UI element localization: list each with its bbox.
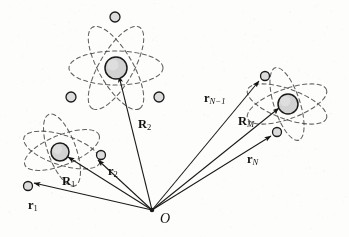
label-RM-subscript: M	[247, 119, 254, 129]
label-RM: RM	[238, 112, 254, 129]
label-R1-subscript: 1	[71, 179, 75, 189]
electron-right	[154, 92, 164, 102]
origin-dot	[150, 208, 155, 213]
label-r2-subscript: 2	[114, 169, 118, 179]
label-rN: rN	[247, 150, 258, 167]
label-rN-minus-1: rN−1	[204, 89, 226, 106]
electron-left	[66, 92, 76, 102]
vector-rN	[152, 136, 271, 210]
position-vectors-figure: r1 r2 R1 R2 RM rN−1 rN O	[0, 0, 349, 237]
label-R1: R1	[62, 172, 75, 189]
label-rN-minus-1-subscript: N−1	[210, 96, 226, 106]
label-R1-symbol: R	[62, 174, 71, 188]
electron-r2	[97, 151, 106, 160]
electron-rN1	[261, 72, 270, 81]
label-R2-symbol: R	[138, 117, 147, 131]
label-R2-subscript: 2	[147, 122, 151, 132]
label-r1-subscript: 1	[34, 203, 38, 213]
electron-rN	[273, 128, 282, 137]
label-rN-subscript: N	[253, 157, 259, 167]
diagram-canvas	[0, 0, 349, 237]
vector-RM	[152, 108, 279, 210]
vector-R2	[119, 76, 152, 210]
label-RM-symbol: R	[238, 114, 247, 128]
nucleus-highlight-atom-1	[53, 145, 62, 154]
label-R2: R2	[138, 115, 151, 132]
nucleus-highlight-atom-M	[280, 96, 290, 106]
origin-label: O	[160, 212, 170, 226]
vector-r2	[98, 160, 152, 210]
nucleus-highlight-atom-2	[107, 59, 118, 70]
electron-top	[110, 12, 120, 22]
origin-marker-layer	[150, 208, 155, 213]
label-r1: r1	[28, 196, 38, 213]
vector-r1	[34, 183, 152, 210]
electron-r1	[24, 182, 33, 191]
label-r2: r2	[108, 162, 118, 179]
